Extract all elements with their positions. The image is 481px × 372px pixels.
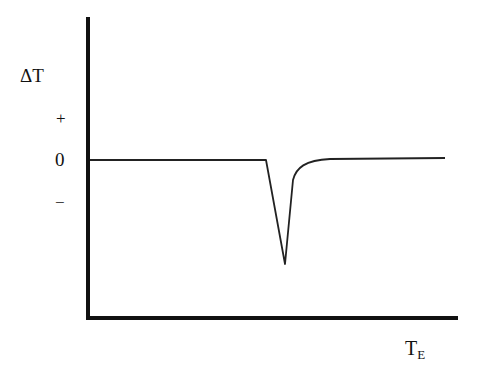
x-axis-label: TE (405, 337, 425, 363)
y-tick-plus: + (56, 109, 66, 129)
dta-curve (90, 158, 445, 264)
y-tick-minus: − (55, 193, 65, 213)
x-axis-label-subscript: E (417, 347, 425, 362)
y-tick-zero: 0 (55, 149, 65, 171)
y-axis-label: ΔT (20, 65, 44, 87)
chart-canvas (0, 0, 481, 372)
x-axis-label-main: T (405, 337, 417, 359)
